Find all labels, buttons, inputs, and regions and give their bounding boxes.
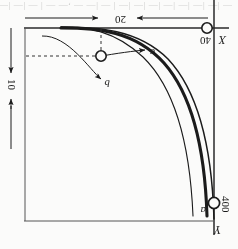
label-axis-x: X [219,34,226,46]
rotated-figure-group: 40 20 10 400 a b c X Y [0,0,238,249]
label-x-origin-40: 40 [200,35,211,46]
leader-arrow-b [42,36,101,79]
curve-c [61,27,193,216]
marker-400 [208,197,219,208]
plot-frame [24,28,214,221]
figure-canvas: — |— |— |— |— |— |— |— | — |— — ,— — | —… [0,0,238,249]
dashed-guides [26,28,101,56]
label-curve-b: b [105,78,111,89]
label-axis-y: Y [214,224,221,236]
marker-b [96,51,106,61]
label-curve-c: c [150,47,155,58]
label-x-mid-20: 20 [115,14,126,25]
label-curve-a: a [201,205,207,216]
label-y-right-10: 10 [6,79,17,90]
marker-40 [202,23,212,33]
label-y-bottom-400: 400 [220,196,231,213]
